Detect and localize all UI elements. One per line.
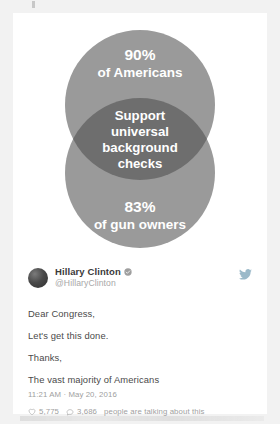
tweet-content: Hillary Clinton @HillaryClinton Dear Con…	[13, 261, 267, 416]
tweet-header: Hillary Clinton @HillaryClinton	[28, 267, 252, 297]
talking-about-text: people are talking about this	[104, 407, 204, 416]
venn-label-americans-text: of Americans	[97, 65, 182, 80]
tweet-card: 90% of Americans Support universal backg…	[13, 13, 267, 414]
tweet-line-1: Dear Congress,	[28, 308, 252, 319]
verified-badge-icon	[124, 268, 132, 276]
venn-label-intersection-line-2: universal	[111, 124, 169, 139]
like-count: 5,775	[39, 407, 59, 416]
display-name-row: Hillary Clinton	[55, 267, 132, 277]
scan-artifact	[32, 1, 35, 8]
display-name[interactable]: Hillary Clinton	[55, 267, 121, 277]
reply-stat[interactable]: 3,686	[66, 407, 97, 416]
handle[interactable]: @HillaryClinton	[55, 279, 132, 288]
comment-icon	[66, 408, 74, 416]
twitter-bird-icon	[239, 269, 252, 280]
like-stat[interactable]: 5,775	[28, 407, 59, 416]
venn-label-intersection-line-3: background	[102, 140, 177, 155]
tweet-timestamp[interactable]: 11:21 AM · May 20, 2016	[28, 390, 252, 399]
tweet-line-4: The vast majority of Americans	[28, 374, 252, 385]
venn-label-gun-owners-percent: 83%	[124, 198, 155, 215]
venn-label-intersection-line-1: Support	[115, 108, 166, 123]
tweet-stats: 5,775 3,686 people are talking about thi…	[28, 407, 252, 416]
tweet-line-3: Thanks,	[28, 352, 252, 363]
heart-icon	[28, 408, 36, 416]
reply-count: 3,686	[77, 407, 97, 416]
venn-label-intersection-line-4: checks	[118, 156, 163, 171]
author-block: Hillary Clinton @HillaryClinton	[55, 267, 132, 288]
venn-label-americans-percent: 90%	[124, 46, 155, 63]
venn-label-gun-owners-text: of gun owners	[94, 217, 186, 232]
avatar[interactable]	[28, 268, 48, 288]
page-background-smudge	[20, 416, 264, 421]
tweet-line-2: Let's get this done.	[28, 330, 252, 341]
venn-diagram: 90% of Americans Support universal backg…	[13, 13, 267, 261]
